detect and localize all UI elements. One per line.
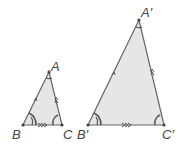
diagram-svg <box>0 0 187 150</box>
vertex-label-a: A <box>51 60 60 73</box>
triangle-abc <box>21 70 63 127</box>
vertex-label-b-prime: B′ <box>77 128 88 141</box>
vertex-label-b: B <box>12 128 21 141</box>
vertex-label-c: C <box>63 128 72 141</box>
triangle-a-prime-b-prime-c-prime <box>86 18 165 127</box>
vertex-label-c-prime: C′ <box>162 128 174 141</box>
similar-triangles-diagram: A B C A′ B′ C′ <box>0 0 187 150</box>
vertex-label-a-prime: A′ <box>141 6 152 19</box>
side-a-prime-c-prime-arrow <box>151 69 154 75</box>
